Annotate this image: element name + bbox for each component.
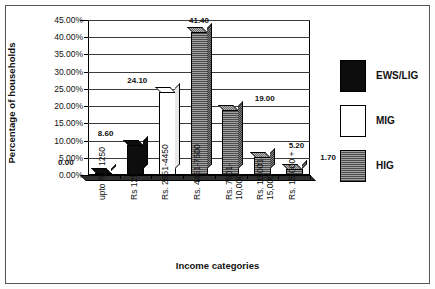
y-tick-mark — [84, 72, 88, 73]
y-axis-title: Percentage of households — [6, 28, 22, 178]
plot-area: 0.00%5.00%10.00%15.00%20.00%25.00%30.00%… — [88, 20, 310, 175]
bar-side-face — [143, 136, 148, 169]
x-tick-mark — [215, 175, 216, 179]
legend-swatch — [340, 105, 366, 137]
x-tick-mark — [310, 175, 311, 179]
bar-value-label: 0.00 — [58, 158, 74, 167]
bar-side-face — [175, 83, 180, 169]
y-tick-mark — [84, 54, 88, 55]
bar-slot — [254, 20, 271, 175]
bar-slot — [222, 20, 239, 175]
y-tick-label: 35.00% — [54, 49, 83, 59]
legend: EWS/LIGMIGHIG — [340, 60, 430, 195]
y-tick-label: 40.00% — [54, 32, 83, 42]
y-tick-label: 20.00% — [54, 101, 83, 111]
chart-figure: Percentage of households 0.00%5.00%10.00… — [0, 0, 435, 289]
legend-label: MIG — [376, 115, 395, 126]
legend-item[interactable]: MIG — [340, 105, 430, 150]
legend-swatch — [340, 150, 366, 182]
bar-side-face — [207, 23, 212, 169]
legend-item[interactable]: EWS/LIG — [340, 60, 430, 105]
y-tick-mark — [84, 123, 88, 124]
bar-value-label: 41.40 — [189, 16, 209, 25]
x-tick-mark — [278, 175, 279, 179]
bar-top-face — [218, 105, 238, 110]
legend-label: EWS/LIG — [376, 70, 418, 81]
legend-label: HIG — [376, 160, 394, 171]
bar-value-label: 1.70 — [320, 153, 336, 162]
y-tick-label: 25.00% — [54, 84, 83, 94]
legend-swatch — [340, 60, 366, 92]
bar-side-face — [238, 101, 243, 169]
x-tick-label: Rs. 2651-4450 — [161, 144, 171, 200]
x-tick-label: Rs. 7501- 10,000 — [225, 163, 244, 200]
y-tick-mark — [84, 106, 88, 107]
y-tick-mark — [84, 158, 88, 159]
x-tick-label: Rs 1251-2650 — [130, 147, 140, 200]
x-tick-mark — [120, 175, 121, 179]
bar-value-label: 8.60 — [98, 129, 114, 138]
x-axis-title: Income categories — [0, 260, 435, 271]
x-tick-label: upto Rs. 1250 — [98, 147, 108, 200]
y-tick-label: 45.00% — [54, 15, 83, 25]
y-tick-mark — [84, 20, 88, 21]
y-tick-mark — [84, 37, 88, 38]
y-tick-mark — [84, 141, 88, 142]
x-tick-label: Rs. 15,000 + — [288, 152, 298, 200]
x-tick-label: Rs. 10,001- 15,000 — [256, 156, 275, 200]
y-tick-mark — [84, 89, 88, 90]
x-tick-mark — [151, 175, 152, 179]
x-tick-mark — [247, 175, 248, 179]
legend-item[interactable]: HIG — [340, 150, 430, 195]
x-tick-mark — [183, 175, 184, 179]
y-tick-label: 15.00% — [54, 118, 83, 128]
y-tick-label: 10.00% — [54, 136, 83, 146]
bar-value-label: 24.10 — [127, 76, 147, 85]
x-tick-label: Rs. 4451-7500 — [193, 144, 203, 200]
y-tick-label: 30.00% — [54, 67, 83, 77]
